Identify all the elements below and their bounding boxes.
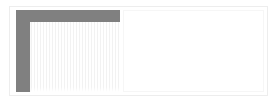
app-viewport [11,8,266,94]
sidebar-label [16,22,17,23]
left-panel [16,10,120,92]
header-bar[interactable] [16,10,120,22]
sidebar-column[interactable] [16,22,30,92]
right-panel[interactable] [123,10,264,92]
right-panel-body [124,11,263,91]
screenshot-root [0,0,278,106]
header-bar-label [16,10,17,11]
data-grid-label [31,22,32,23]
grid-bottom-fade [31,87,120,92]
data-grid[interactable] [30,22,120,92]
window-frame [9,6,268,96]
